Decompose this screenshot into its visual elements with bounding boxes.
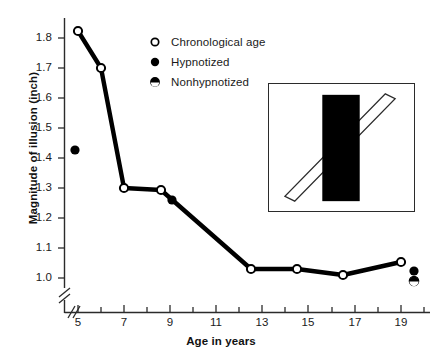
illusion-magnitude-figure: 1.8 1.7 1.6 1.5 1.4 1.3 1.2 1.1 1.0 5 7 … [0, 0, 442, 357]
x-axis-title: Age in years [0, 335, 442, 347]
legend-label-chronological-age: Chronological age [171, 36, 265, 48]
poggendorff-illusion-diagram [269, 84, 414, 211]
black-rectangle-occluder [322, 95, 359, 201]
y-axis-title: Magnitude of illusion (inch) [27, 63, 39, 233]
x-tick-label-11: 11 [204, 316, 228, 328]
legend-item-hypnotized: Hypnotized [146, 53, 265, 71]
x-tick-label-17: 17 [343, 316, 367, 328]
legend-item-nonhypnotized: Nonhypnotized [146, 73, 265, 91]
y-tick-label-1-8: 1.8 [22, 31, 52, 43]
legend-label-nonhypnotized: Nonhypnotized [171, 76, 249, 88]
x-tick-label-5: 5 [66, 316, 90, 328]
filled-circle-icon [146, 56, 164, 68]
legend-item-chronological-age: Chronological age [146, 33, 265, 51]
open-circle-icon [146, 36, 164, 48]
y-tick-label-1-1: 1.1 [22, 241, 52, 253]
legend-label-hypnotized: Hypnotized [171, 56, 230, 68]
x-tick-label-7: 7 [112, 316, 136, 328]
y-tick-label-1-0: 1.0 [22, 271, 52, 283]
x-tick-label-19: 19 [389, 316, 413, 328]
x-tick-label-15: 15 [296, 316, 320, 328]
x-tick-label-13: 13 [250, 316, 274, 328]
half-filled-circle-icon [146, 76, 164, 88]
nonhypnotized-markers [409, 276, 418, 286]
legend: Chronological age Hypnotized Nonhypnotiz… [146, 33, 265, 93]
illusion-stimulus-inset [268, 83, 415, 212]
x-tick-label-9: 9 [158, 316, 182, 328]
